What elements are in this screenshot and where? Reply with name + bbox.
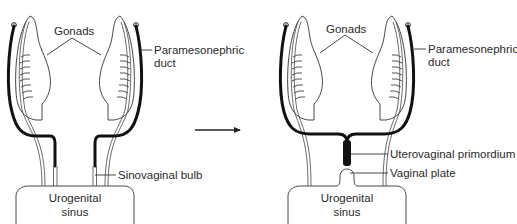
label-paramesonephric-after-2: duct	[428, 56, 451, 68]
gonad-right	[93, 16, 142, 186]
gonad-left	[16, 16, 51, 186]
uterovaginal-primordium-shape	[343, 140, 351, 166]
label-paramesonephric-after-1: Paramesonephric	[428, 43, 517, 55]
label-urogenital-after-2: sinus	[334, 206, 361, 218]
label-urogenital-before-2: sinus	[62, 206, 89, 218]
label-gonads-before: Gonads	[54, 25, 95, 37]
label-paramesonephric-before-1: Paramesonephric	[154, 44, 244, 56]
gonads-leader-left	[47, 38, 72, 55]
label-paramesonephric-before-2: duct	[154, 57, 177, 69]
label-gonads-after: Gonads	[326, 23, 367, 35]
label-urogenital-after-1: Urogenital	[321, 192, 373, 204]
panel-before: Gonads Paramesonephric duct Sinovaginal …	[8, 16, 244, 224]
panel-after: Gonads Paramesonephric duct Uterovaginal…	[280, 16, 517, 224]
label-sinovaginal-bulb: Sinovaginal bulb	[118, 169, 202, 181]
label-urogenital-before-1: Urogenital	[49, 192, 101, 204]
gonad-right-after	[371, 16, 406, 186]
label-vaginal-plate: Vaginal plate	[390, 167, 456, 179]
gonads-leader-left-after	[320, 35, 345, 53]
gonads-leader-right	[72, 38, 101, 55]
gonad-left-after	[288, 16, 323, 186]
label-uterovaginal-primordium: Uterovaginal primordium	[390, 148, 515, 160]
paramesonephric-duct-fused	[280, 26, 413, 142]
gonads-leader-right-after	[345, 35, 373, 53]
diagram-canvas: Gonads Paramesonephric duct Sinovaginal …	[0, 0, 517, 224]
